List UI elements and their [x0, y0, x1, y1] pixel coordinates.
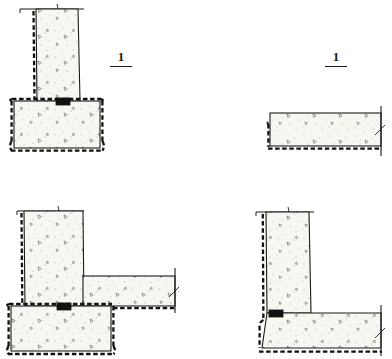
detail-1-slab-drawing — [196, 0, 392, 180]
detail-panel-1-slab: 1 — [196, 0, 392, 180]
detail-label-1-left: 1 — [110, 50, 132, 67]
detail-2-wall-slab-drawing — [196, 180, 392, 359]
wall-stem — [36, 9, 80, 101]
spread-footing — [11, 306, 111, 351]
detail-label-1-right-underline — [325, 66, 347, 67]
drawing-sheet: 1 — [0, 0, 392, 359]
waterstop — [56, 98, 70, 105]
floor-slab — [83, 276, 175, 306]
spread-footing — [14, 101, 100, 148]
detail-label-1-right: 1 — [325, 50, 347, 67]
floor-slab — [262, 313, 381, 348]
wall-stem — [24, 211, 84, 306]
detail-label-1-left-number: 1 — [110, 50, 132, 63]
detail-2-drawing — [0, 180, 196, 359]
waterstop — [269, 310, 283, 317]
detail-label-1-left-underline — [110, 66, 132, 67]
detail-panel-1-wall-footing: 1 — [0, 0, 196, 180]
floor-slab — [270, 113, 381, 146]
waterstop — [57, 303, 71, 310]
detail-1-drawing — [0, 0, 196, 180]
detail-panel-2-wall-footing-slab: 2 — [0, 180, 196, 359]
detail-label-1-right-number: 1 — [325, 50, 347, 63]
wall-stem — [266, 212, 311, 313]
detail-panel-2-wall-slab: 2 — [196, 180, 392, 359]
